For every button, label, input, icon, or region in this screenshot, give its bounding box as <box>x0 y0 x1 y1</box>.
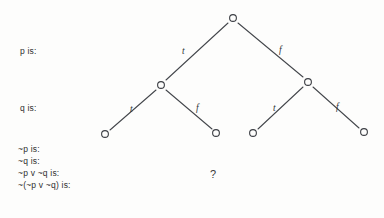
edge-label-p-true-true: t <box>130 104 133 114</box>
edge-p-true-to-tt <box>110 90 156 130</box>
tree-node-p-true <box>158 82 165 89</box>
question-mark: ? <box>210 168 216 180</box>
truth-tree-figure: t f t f t f p is: q is: ~p is: ~q is: ~p… <box>0 0 384 218</box>
edge-root-to-p-true <box>166 23 228 80</box>
tree-node-leaf-tt <box>102 131 109 138</box>
edge-root-to-p-false <box>238 23 303 77</box>
row-label-p: p is: <box>20 47 37 56</box>
edge-p-false-to-ft <box>258 87 303 129</box>
tree-node-leaf-ft <box>250 130 257 137</box>
edge-p-true-to-tf <box>166 90 212 129</box>
row-label-q: q is: <box>20 104 37 113</box>
edge-label-root-true: t <box>182 46 185 56</box>
tree-node-p-false <box>305 79 312 86</box>
row-label-negated-disjunction: ~(~p v ~q) is: <box>18 181 71 190</box>
edge-label-p-true-false: f <box>196 103 200 113</box>
edge-label-root-false: f <box>279 45 283 55</box>
tree-node-root <box>230 15 237 22</box>
row-label-not-p: ~p is: <box>18 145 40 154</box>
row-label-not-q: ~q is: <box>18 157 40 166</box>
tree-node-leaf-tf <box>213 130 220 137</box>
edge-label-p-false-true: t <box>273 103 276 113</box>
tree-node-leaf-ff <box>361 129 368 136</box>
row-label-disjunction: ~p v ~q is: <box>18 169 59 178</box>
